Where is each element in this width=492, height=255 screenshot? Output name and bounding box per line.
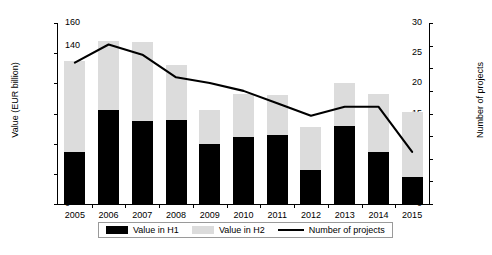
legend-swatch-h1-icon <box>106 226 128 234</box>
x-tick <box>227 204 228 208</box>
x-tick-label: 2015 <box>392 210 432 220</box>
line-path <box>75 44 412 151</box>
y-tick-right <box>429 136 433 137</box>
legend-item-value-h2: Value in H2 <box>192 226 265 235</box>
legend-label-h2: Value in H2 <box>219 226 265 235</box>
y-tick-right <box>429 181 433 182</box>
x-tick <box>294 204 295 208</box>
x-tick <box>125 204 126 208</box>
y-tick-left <box>54 204 58 205</box>
x-tick <box>362 204 363 208</box>
legend-swatch-h2-icon <box>192 226 214 234</box>
y-tick-right <box>429 159 433 160</box>
legend-label-projects: Number of projects <box>309 226 385 235</box>
y-tick-right <box>429 91 433 92</box>
chart-container: Value (EUR billion) Number of projects 0… <box>0 0 492 255</box>
legend-label-h1: Value in H1 <box>133 226 179 235</box>
legend-swatch-line-icon <box>278 229 304 231</box>
x-tick <box>193 204 194 208</box>
x-tick <box>395 204 396 208</box>
legend-item-number-of-projects: Number of projects <box>278 226 385 235</box>
y-tick-right <box>429 68 433 69</box>
line-series-number-of-projects <box>58 23 429 204</box>
chart-legend: Value in H1 Value in H2 Number of projec… <box>98 222 393 238</box>
y-tick-right <box>429 114 433 115</box>
legend-item-value-h1: Value in H1 <box>106 226 179 235</box>
caption-remnant <box>0 247 492 255</box>
x-tick <box>159 204 160 208</box>
y-tick-right <box>429 46 433 47</box>
plot-area: 051015202530 020406080100120140160 20052… <box>57 23 430 205</box>
x-tick <box>328 204 329 208</box>
y-axis-title-left: Value (EUR billion) <box>10 40 20 160</box>
y-axis-title-right: Number of projects <box>475 40 485 160</box>
y-tick-right <box>429 23 433 24</box>
y-tick-right <box>429 204 433 205</box>
x-tick <box>92 204 93 208</box>
x-tick <box>260 204 261 208</box>
